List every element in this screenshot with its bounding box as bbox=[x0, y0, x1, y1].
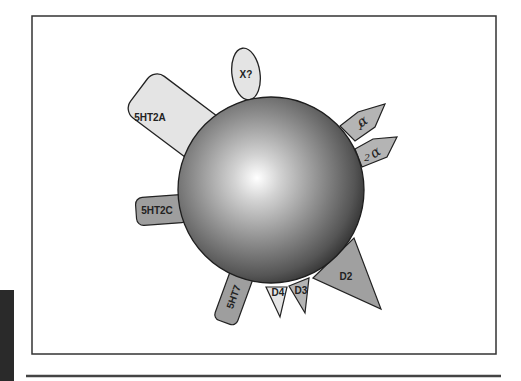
subscript-alpha2: 2 bbox=[363, 153, 370, 163]
subscript-alpha1: 1 bbox=[358, 122, 364, 132]
label-5ht2a: 5HT2A bbox=[134, 112, 166, 123]
label-d2: D2 bbox=[340, 271, 353, 282]
left-edge-strip bbox=[0, 290, 14, 381]
receptor-diagram: 5HT2A X? α 1 α 2 5HT2C 5HT7 D2 D3 D4 bbox=[0, 0, 521, 381]
label-x: X? bbox=[240, 69, 253, 80]
label-d3: D3 bbox=[295, 285, 308, 296]
drug-sphere bbox=[178, 97, 364, 283]
label-d4: D4 bbox=[272, 287, 285, 298]
label-5ht2c: 5HT2C bbox=[141, 205, 173, 216]
